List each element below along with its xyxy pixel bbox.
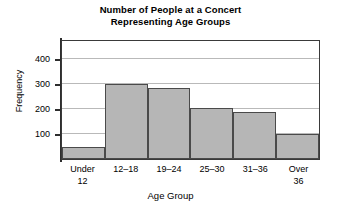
bar — [105, 84, 148, 159]
x-axis-tick-label: Over36 — [277, 164, 320, 187]
bar-series — [62, 41, 319, 159]
x-axis-tick-label-line-1: 31–36 — [243, 164, 268, 174]
x-axis-tick-label-line-1: 12–18 — [113, 164, 138, 174]
chart-title-line-2: Representing Age Groups — [0, 16, 341, 28]
x-axis-tick-label: 25–30 — [191, 164, 234, 187]
x-axis-tick-label: Under12 — [61, 164, 104, 187]
bar — [190, 108, 233, 159]
chart-title: Number of People at a Concert Representi… — [0, 4, 341, 28]
bar — [62, 147, 105, 160]
plot-area — [61, 40, 320, 160]
x-axis-tick-label: 19–24 — [147, 164, 190, 187]
x-axis-tick-label-line-1: 19–24 — [156, 164, 181, 174]
x-axis-tick-label-line-1: Over — [289, 164, 309, 174]
x-axis-tick-label: 31–36 — [234, 164, 277, 187]
y-axis-tick-label: 200 — [16, 105, 50, 114]
chart-title-line-1: Number of People at a Concert — [0, 4, 341, 16]
x-axis-tick-label-line-2: 12 — [61, 176, 104, 188]
y-axis-tick-label: 300 — [16, 80, 50, 89]
y-axis-tick-label: 100 — [16, 130, 50, 139]
bar — [148, 88, 191, 159]
chart-figure: Number of People at a Concert Representi… — [0, 0, 341, 217]
y-axis-tick-label: 400 — [16, 55, 50, 64]
bar — [276, 134, 319, 159]
x-axis-tick-label: 12–18 — [104, 164, 147, 187]
x-axis-tick-label-line-2: 36 — [277, 176, 320, 188]
x-axis-tick-labels: Under1212–1819–2425–3031–36Over36 — [61, 164, 320, 187]
x-axis-tick-label-line-1: 25–30 — [200, 164, 225, 174]
bar — [233, 112, 276, 160]
x-axis-tick-label-line-1: Under — [70, 164, 95, 174]
x-axis-title: Age Group — [0, 190, 341, 201]
